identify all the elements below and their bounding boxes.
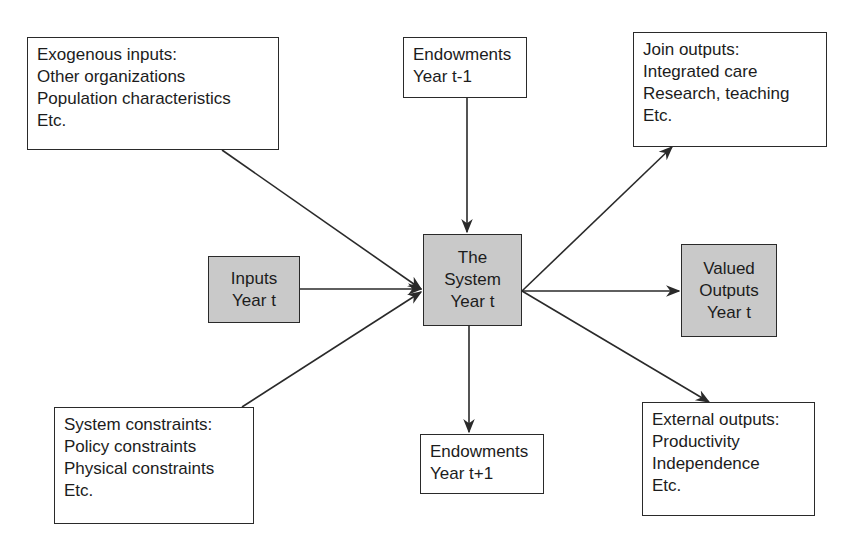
system-constraints-box: System constraints: Policy constraints P…: [54, 407, 254, 524]
exogenous-inputs-item: Other organizations: [37, 66, 278, 88]
endowments-next-year: Year t+1: [430, 463, 543, 485]
exogenous-inputs-item: Population characteristics: [37, 88, 278, 110]
inputs-box: Inputs Year t: [208, 256, 300, 323]
external-outputs-item: Etc.: [652, 475, 814, 497]
system-year: Year t: [451, 291, 495, 313]
system-constraints-item: Policy constraints: [64, 436, 253, 458]
system-label-the: The: [458, 247, 487, 269]
exogenous-inputs-box: Exogenous inputs: Other organizations Po…: [27, 37, 279, 150]
system-constraints-item: Physical constraints: [64, 458, 253, 480]
inputs-year: Year t: [232, 290, 276, 312]
valued-outputs-label: Outputs: [699, 280, 759, 302]
endowments-next-box: Endowments Year t+1: [420, 434, 544, 494]
endowments-next-label: Endowments: [430, 441, 543, 463]
external-outputs-box: External outputs: Productivity Independe…: [642, 402, 815, 516]
join-outputs-item: Etc.: [643, 105, 826, 127]
valued-outputs-year: Year t: [707, 302, 751, 324]
join-outputs-title: Join outputs:: [643, 39, 826, 61]
arrow-system-to-join-outputs: [522, 147, 672, 291]
endowments-prev-box: Endowments Year t-1: [403, 37, 527, 98]
system-constraints-title: System constraints:: [64, 414, 253, 436]
system-box: The System Year t: [423, 234, 522, 326]
external-outputs-item: Productivity: [652, 431, 814, 453]
valued-outputs-label: Valued: [703, 258, 755, 280]
external-outputs-title: External outputs:: [652, 409, 814, 431]
inputs-label: Inputs: [231, 268, 277, 290]
system-constraints-item: Etc.: [64, 480, 253, 502]
endowments-prev-label: Endowments: [413, 44, 526, 66]
endowments-prev-year: Year t-1: [413, 66, 526, 88]
join-outputs-item: Research, teaching: [643, 83, 826, 105]
exogenous-inputs-title: Exogenous inputs:: [37, 44, 278, 66]
valued-outputs-box: Valued Outputs Year t: [681, 244, 777, 337]
external-outputs-item: Independence: [652, 453, 814, 475]
join-outputs-box: Join outputs: Integrated care Research, …: [633, 32, 827, 147]
join-outputs-item: Integrated care: [643, 61, 826, 83]
exogenous-inputs-item: Etc.: [37, 110, 278, 132]
system-label: System: [444, 269, 501, 291]
